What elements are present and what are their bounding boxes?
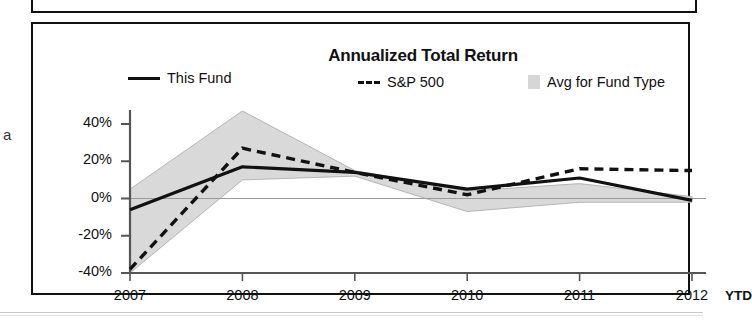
- avg-for-fund-type-band: [130, 111, 692, 273]
- plot-area: 40%20%0%-20%-40%200720082009201020112012…: [66, 48, 721, 317]
- x-axis-tick-label: 2010: [437, 287, 497, 303]
- y-axis-tick-label: -40%: [58, 263, 112, 279]
- y-axis-tick-label: 20%: [58, 151, 112, 167]
- x-axis-tick-label: 2012: [662, 287, 722, 303]
- x-axis-tick-label: 2007: [100, 287, 160, 303]
- x-axis-tick-label: 2011: [550, 287, 610, 303]
- annualized-total-return-chart-card: Annualized Total Return This Fund S&P 50…: [31, 22, 690, 295]
- y-axis-tick-label: 0%: [58, 189, 112, 205]
- y-axis-tick-label: 40%: [58, 114, 112, 130]
- page-divider-rule-secondary: [0, 315, 703, 316]
- x-axis-tick-label: 2008: [212, 287, 272, 303]
- x-axis-ytd-label: YTD: [725, 288, 752, 303]
- chart-svg: [66, 48, 721, 317]
- y-axis-tick-label: -20%: [58, 226, 112, 242]
- left-margin-glyph: a: [3, 126, 16, 144]
- panel-above-divider: [31, 0, 697, 13]
- page-divider-rule: [0, 312, 703, 313]
- x-axis-tick-label: 2009: [325, 287, 385, 303]
